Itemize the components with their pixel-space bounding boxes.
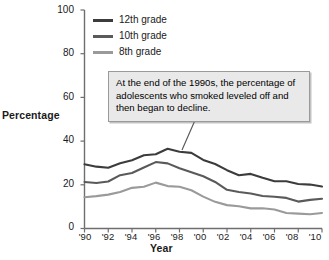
- series-line-12th-grade: [85, 149, 323, 187]
- legend-item-12th-grade: 12th grade: [93, 13, 167, 27]
- legend-item-8th-grade: 8th grade: [93, 45, 167, 59]
- legend-swatch-10th-grade: [93, 35, 113, 38]
- legend-swatch-8th-grade: [93, 51, 113, 54]
- legend-item-10th-grade: 10th grade: [93, 29, 167, 43]
- legend-swatch-12th-grade: [93, 19, 113, 22]
- annotation-callout: At the end of the 1990s, the percentage …: [108, 71, 310, 122]
- smoking-trends-line-chart: Percentage Year 100 80 60 40 20 0 '90 '9…: [0, 0, 329, 260]
- legend: 12th grade 10th grade 8th grade: [93, 13, 167, 61]
- legend-label-12th-grade: 12th grade: [119, 15, 167, 25]
- legend-label-10th-grade: 10th grade: [119, 31, 167, 41]
- callout-pointer-line: [182, 118, 196, 150]
- legend-label-8th-grade: 8th grade: [119, 47, 161, 57]
- data-series-group: [85, 149, 323, 215]
